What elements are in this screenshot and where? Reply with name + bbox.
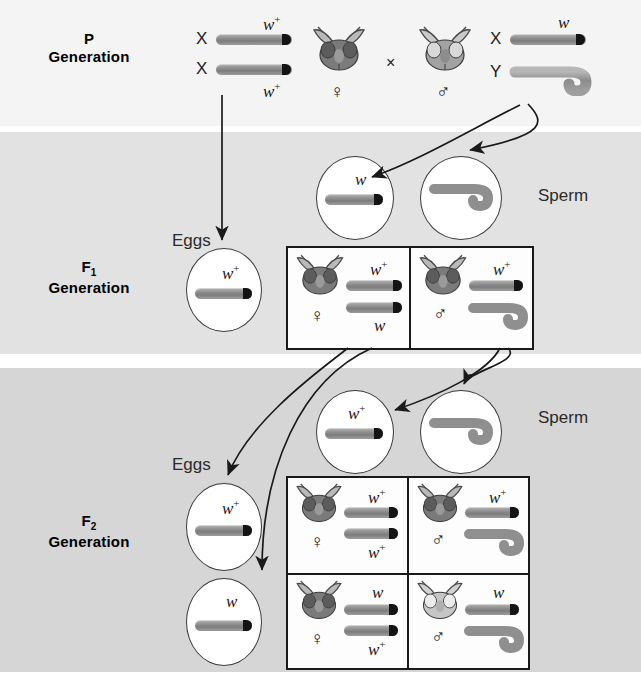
f2-bl-sex-symbol: ♀ <box>310 629 324 648</box>
allele-sup: + <box>359 402 365 414</box>
f2-tr-y-chromosome <box>463 526 527 556</box>
f2-br-male-fly-icon <box>413 578 467 624</box>
allele-letter: w <box>489 488 500 507</box>
f2-bl-allele-bottom: w+ <box>368 638 386 660</box>
f2-offspring-cell-top-right: ♂ w+ <box>407 478 528 573</box>
f1-female-x-chromosome-1 <box>346 280 402 291</box>
f1-offspring-cell-female: ♀ w+ w <box>288 248 409 348</box>
f2-bl-x-chromosome-2 <box>344 625 398 636</box>
f2-offspring-cell-bottom-left: ♀ w w+ <box>288 575 407 668</box>
f2-sperm-x-chromosome <box>325 428 383 439</box>
allele-letter: w <box>263 82 274 101</box>
f2-bl-allele-top: w <box>372 583 383 603</box>
gen-f1-sub: 1 <box>91 267 97 278</box>
gen-p-line2: Generation <box>48 48 129 65</box>
allele-letter: w <box>372 583 383 602</box>
f1-male-sex-symbol: ♂ <box>433 304 447 323</box>
f2-tl-allele-top: w+ <box>368 486 386 508</box>
f1-female-fly-icon <box>292 252 348 300</box>
allele-letter: w <box>368 543 379 562</box>
page-title-p-generation: P Generation <box>14 30 164 65</box>
f1-eggs-label: Eggs <box>172 231 211 251</box>
p-male-chrom-letter-x: X <box>490 29 501 49</box>
f2-br-y-chromosome <box>463 623 527 653</box>
gen-f2-line2: Generation <box>48 533 129 550</box>
p-female-allele-label-bottom: w+ <box>263 80 281 102</box>
gen-f2-sub: 2 <box>91 521 97 532</box>
f2-sperm-x-allele: w+ <box>348 402 366 424</box>
p-female-x-chromosome-2 <box>216 64 292 75</box>
f1-male-y-chromosome <box>467 300 531 330</box>
f1-egg-x-chromosome <box>195 288 252 299</box>
f2-sperm-label: Sperm <box>538 408 588 428</box>
f2-tl-allele-bottom: w+ <box>368 541 386 563</box>
f2-egg-wildtype-x-chromosome <box>195 525 252 536</box>
page-title-f1-generation: F1 Generation <box>14 258 164 296</box>
f1-sperm-x-chromosome <box>325 194 383 205</box>
allele-letter: w <box>493 583 504 602</box>
allele-sup: + <box>500 486 506 498</box>
allele-sup: + <box>274 13 280 25</box>
p-female-sex-symbol: ♀ <box>330 82 344 101</box>
p-female-fly-icon <box>308 24 370 76</box>
f2-egg-wildtype-allele: w+ <box>222 497 240 519</box>
f2-br-sex-symbol: ♂ <box>431 627 445 646</box>
allele-sup: + <box>233 262 239 274</box>
p-female-chrom-letter-x2: X <box>196 59 207 79</box>
f1-female-x-chromosome-2 <box>346 302 402 313</box>
allele-letter: w <box>222 264 233 283</box>
allele-sup: + <box>379 486 385 498</box>
f2-eggs-label: Eggs <box>172 455 211 475</box>
f2-tr-sex-symbol: ♂ <box>431 530 445 549</box>
f2-egg-white-allele: w <box>226 592 237 612</box>
f1-male-x-chromosome <box>469 280 523 291</box>
gen-f1-line2: Generation <box>48 279 129 296</box>
allele-letter: w <box>558 13 569 32</box>
gen-p-line1: P <box>84 30 94 47</box>
gen-f2-line1: F <box>81 512 90 529</box>
allele-letter: w <box>374 316 385 335</box>
allele-letter: w <box>226 592 237 611</box>
figure-canvas: P Generation F1 Generation F2 Generation… <box>0 0 641 687</box>
allele-sup: + <box>379 638 385 650</box>
gen-f1-line1: F <box>81 258 90 275</box>
f2-tr-x-chromosome <box>465 507 519 518</box>
f2-offspring-cell-top-left: ♀ w+ w+ <box>288 478 407 573</box>
p-female-chrom-letter-x1: X <box>196 29 207 49</box>
allele-letter: w <box>370 260 381 279</box>
allele-letter: w <box>222 499 233 518</box>
f1-offspring-cell-male: ♂ w+ <box>409 248 532 348</box>
allele-letter: w <box>263 15 274 34</box>
p-female-allele-label-top: w+ <box>263 13 281 35</box>
allele-sup: + <box>504 258 510 270</box>
f1-female-allele-top: w+ <box>370 258 388 280</box>
f1-male-allele-top: w+ <box>493 258 511 280</box>
allele-letter: w <box>368 488 379 507</box>
page-title-f2-generation: F2 Generation <box>14 512 164 550</box>
f1-sperm-label: Sperm <box>538 186 588 206</box>
f2-tl-x-chromosome-2 <box>344 528 398 539</box>
f2-tl-x-chromosome-1 <box>344 507 398 518</box>
p-male-y-chromosome <box>508 62 594 96</box>
allele-sup: + <box>381 258 387 270</box>
allele-sup: + <box>233 497 239 509</box>
p-male-sex-symbol: ♂ <box>436 82 450 101</box>
f1-offspring-box: ♀ w+ w <box>286 246 534 350</box>
f2-offspring-box: ♀ w+ w+ <box>286 476 530 670</box>
allele-letter: w <box>493 260 504 279</box>
f2-egg-white-x-chromosome <box>195 620 252 631</box>
p-male-fly-icon <box>414 24 476 76</box>
f2-sperm-y-chromosome <box>428 414 496 446</box>
p-female-x-chromosome-1 <box>216 34 292 45</box>
allele-letter: w <box>348 404 359 423</box>
f1-female-sex-symbol: ♀ <box>310 306 324 325</box>
f2-bl-x-chromosome-1 <box>344 604 398 615</box>
f2-tr-male-fly-icon <box>413 481 467 527</box>
f2-tl-sex-symbol: ♀ <box>310 532 324 551</box>
f2-br-x-chromosome <box>465 604 519 615</box>
allele-sup: + <box>379 541 385 553</box>
f1-female-allele-bottom: w <box>374 316 385 336</box>
p-cross-symbol: × <box>386 54 395 72</box>
p-male-allele-label: w <box>558 13 569 33</box>
f1-sperm-x-allele: w <box>355 170 366 190</box>
